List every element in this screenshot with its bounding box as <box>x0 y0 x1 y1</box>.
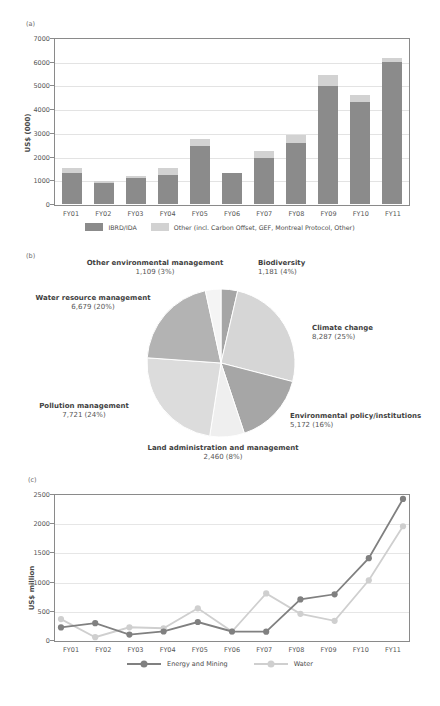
bar-segment-other <box>254 151 274 159</box>
x-tick-label: FY06 <box>216 210 248 218</box>
y-tick-mark <box>50 611 54 612</box>
x-tick-label: FY11 <box>377 646 409 654</box>
pie-label-title: Climate change <box>312 324 432 333</box>
panel-b-pie <box>146 288 296 438</box>
bar-group <box>280 40 312 204</box>
pie-label-water-resource-management: Water resource management 6,679 (20%) <box>18 294 168 313</box>
series-point <box>126 624 132 630</box>
bar-group <box>152 40 184 204</box>
pie-label-value: 8,287 (25%) <box>312 333 432 342</box>
series-point <box>332 618 338 624</box>
y-tick-label: 1500 <box>4 550 50 557</box>
x-tick-label: FY04 <box>152 210 184 218</box>
series-point <box>400 496 406 502</box>
bar-group <box>88 40 120 204</box>
bar-group <box>344 40 376 204</box>
bar-segment-other <box>318 75 338 85</box>
bar-stack <box>190 139 210 204</box>
panel-b-pie-chart: (b) Other environmental management 1,109… <box>0 252 440 474</box>
panel-a-bars <box>56 40 408 204</box>
legend-line-water <box>254 663 288 665</box>
bar-segment-ibrd-ida <box>286 143 306 204</box>
x-tick-label: FY09 <box>313 210 345 218</box>
y-tick-label: 6000 <box>4 60 50 67</box>
bar-group <box>248 40 280 204</box>
bar-stack <box>286 135 306 204</box>
y-tick-mark <box>50 494 54 495</box>
y-tick-label: 4000 <box>4 107 50 114</box>
series-line <box>61 526 403 637</box>
x-tick-label: FY02 <box>87 210 119 218</box>
pie-label-title: Other environmental management <box>60 259 250 268</box>
x-tick-label: FY07 <box>248 646 280 654</box>
series-point <box>92 620 98 626</box>
bar-stack <box>254 151 274 204</box>
panel-b-tag: (b) <box>26 252 35 260</box>
y-tick-label: 2000 <box>4 155 50 162</box>
panel-c-x-ticks: FY01FY02FY03FY04FY05FY06FY07FY08FY09FY10… <box>55 646 409 654</box>
y-tick-label: 0 <box>4 638 50 645</box>
y-tick-label: 1000 <box>4 178 50 185</box>
pie-label-climate-change: Climate change 8,287 (25%) <box>312 324 432 343</box>
series-point <box>263 590 269 596</box>
bar-segment-other <box>350 95 370 103</box>
panel-c-line-chart: (c) US$ million 05001000150020002500 FY0… <box>0 476 440 691</box>
pie-label-title: Biodiversity <box>258 259 378 268</box>
panel-c-series-svg <box>55 495 409 641</box>
pie-label-value: 2,460 (8%) <box>108 453 338 462</box>
bar-segment-ibrd-ida <box>382 62 402 204</box>
bar-segment-ibrd-ida <box>94 183 114 204</box>
panel-a-plot-area: 01000200030004000500060007000 <box>54 38 410 206</box>
y-tick-label: 0 <box>4 202 50 209</box>
pie-label-title: Environmental policy/institutions <box>290 412 440 421</box>
bar-stack <box>382 58 402 204</box>
y-tick-label: 5000 <box>4 83 50 90</box>
series-point <box>297 596 303 602</box>
legend-item-water: Water <box>254 660 313 668</box>
series-point <box>126 631 132 637</box>
bar-segment-other <box>190 139 210 147</box>
y-tick-mark <box>50 38 54 39</box>
legend-swatch-other <box>151 223 169 231</box>
x-tick-label: FY05 <box>184 646 216 654</box>
series-point <box>332 591 338 597</box>
bar-group <box>376 40 408 204</box>
bar-stack <box>222 173 242 204</box>
bar-group <box>312 40 344 204</box>
bar-group <box>56 40 88 204</box>
x-tick-label: FY07 <box>248 210 280 218</box>
legend-item-ibrd-ida: IBRD/IDA <box>85 223 136 231</box>
legend-item-other: Other (incl. Carbon Offset, GEF, Montrea… <box>151 223 355 231</box>
y-tick-mark <box>50 109 54 110</box>
x-tick-label: FY02 <box>87 646 119 654</box>
y-tick-mark <box>50 85 54 86</box>
panel-a-x-ticks: FY01FY02FY03FY04FY05FY06FY07FY08FY09FY10… <box>55 210 409 218</box>
panel-a-legend: IBRD/IDA Other (incl. Carbon Offset, GEF… <box>0 223 440 231</box>
series-point <box>400 523 406 529</box>
x-tick-label: FY10 <box>345 646 377 654</box>
y-tick-mark <box>50 552 54 553</box>
y-tick-mark <box>50 180 54 181</box>
bar-group <box>216 40 248 204</box>
x-tick-label: FY08 <box>280 210 312 218</box>
y-tick-mark <box>50 523 54 524</box>
series-point <box>366 555 372 561</box>
y-tick-label: 2000 <box>4 521 50 528</box>
legend-label-other: Other (incl. Carbon Offset, GEF, Montrea… <box>174 224 355 231</box>
x-tick-label: FY08 <box>280 646 312 654</box>
series-point <box>297 611 303 617</box>
bar-stack <box>318 75 338 204</box>
series-point <box>366 577 372 583</box>
pie-label-value: 1,109 (3%) <box>60 268 250 277</box>
bar-segment-other <box>286 135 306 144</box>
bar-segment-ibrd-ida <box>222 173 242 204</box>
legend-line-energy-and-mining <box>127 663 161 665</box>
pie-svg <box>146 288 296 438</box>
pie-label-pollution-management: Pollution management 7,721 (24%) <box>14 402 154 421</box>
legend-swatch-ibrd-ida <box>85 223 103 231</box>
panel-c-tag: (c) <box>28 476 37 484</box>
bar-stack <box>62 168 82 204</box>
x-tick-label: FY03 <box>119 646 151 654</box>
bar-group <box>184 40 216 204</box>
bar-segment-ibrd-ida <box>190 146 210 204</box>
